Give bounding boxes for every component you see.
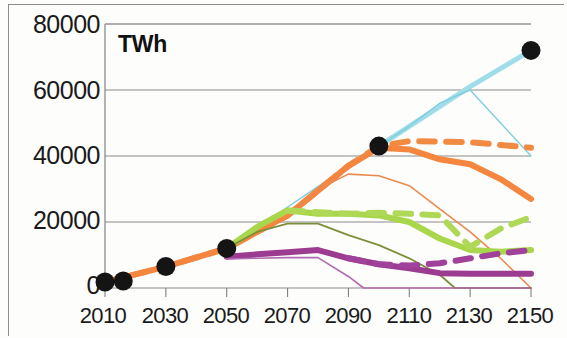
data-point-marker: [522, 41, 541, 60]
chart-figure: 80000 60000 40000 20000 0 TWh 2010 2030 …: [0, 0, 567, 338]
data-series-group: [105, 50, 531, 288]
data-point-marker: [217, 239, 236, 258]
chart-plot-area: [0, 0, 567, 338]
axis-ticks-group: [105, 288, 531, 297]
data-point-marker: [114, 272, 133, 291]
series-line-cyan-thin-alt: [105, 90, 531, 282]
data-point-marker: [369, 137, 388, 156]
data-point-marker: [96, 273, 115, 292]
data-point-marker: [156, 257, 175, 276]
